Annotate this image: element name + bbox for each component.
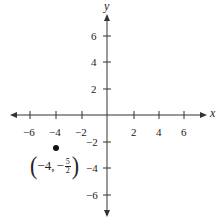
x-tick-label: −2	[75, 127, 87, 138]
x-tick-label: −4	[49, 127, 61, 138]
data-point	[53, 145, 59, 151]
y-tick-label: −2	[86, 137, 98, 148]
coordinate-plane: y x −6 −4 −2 2 4 6 6 4 2 −2 −4 −6 ( −4, …	[0, 0, 221, 219]
x-tick-label: 2	[131, 127, 137, 138]
y-tick-label: −6	[86, 190, 98, 201]
x-tick-label: 4	[156, 127, 162, 138]
y-tick-label: 4	[91, 57, 97, 68]
axes-graphic	[0, 0, 221, 219]
y-tick-label: 6	[91, 31, 97, 42]
x-tick-label: −6	[23, 127, 35, 138]
x-axis-label: x	[210, 108, 215, 119]
y-axis-label: y	[104, 1, 109, 12]
y-tick-label: 2	[91, 84, 97, 95]
y-tick-label: −4	[86, 163, 98, 174]
point-label: ( −4, − 5 2 )	[30, 155, 79, 177]
fraction: 5 2	[65, 158, 71, 175]
x-tick-label: 6	[181, 127, 187, 138]
